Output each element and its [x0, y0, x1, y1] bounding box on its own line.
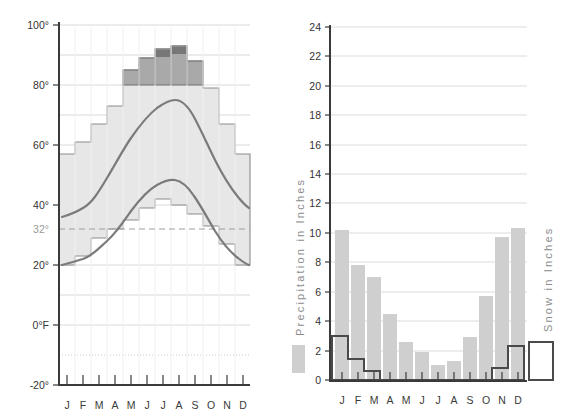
temperature-month-label-feb: F — [80, 399, 86, 411]
precipitation-month-label-jan: J — [339, 394, 344, 406]
temperature-month-label-oct: O — [207, 399, 215, 411]
precipitation-month-label-jul: J — [435, 394, 440, 406]
temperature-month-label-nov: N — [223, 399, 231, 411]
temperature-month-label-sep: S — [191, 399, 198, 411]
precipitation-bar-feb — [351, 265, 365, 380]
precipitation-ytick-10: 10 — [309, 227, 321, 239]
temperature-month-label-mar: M — [95, 399, 104, 411]
precipitation-ytick-2: 2 — [315, 345, 321, 357]
precipitation-bar-dec — [511, 228, 525, 380]
precipitation-ytick-20: 20 — [309, 80, 321, 92]
precipitation-ytick-16: 16 — [309, 139, 321, 151]
precipitation-snow-chart: 24 22 20 18 16 14 12 10 8 6 4 2 0 J F M … — [290, 0, 565, 416]
precipitation-ytick-18: 18 — [309, 109, 321, 121]
precipitation-ytick-14: 14 — [309, 168, 321, 180]
temperature-ytick-minus20: -20° — [30, 379, 49, 391]
temperature-month-label-apr: A — [111, 399, 118, 411]
precipitation-bar-oct — [479, 296, 493, 380]
precipitation-month-label-oct: O — [482, 394, 490, 406]
temperature-ytick-40: 40° — [33, 199, 49, 211]
temperature-month-label-jun: J — [144, 399, 149, 411]
precipitation-month-label-jun: J — [419, 394, 424, 406]
temperature-ytick-0F: 0°F — [33, 319, 49, 331]
precipitation-ytick-12: 12 — [309, 197, 321, 209]
precipitation-month-label-feb: F — [355, 394, 361, 406]
precipitation-ytick-6: 6 — [315, 286, 321, 298]
precipitation-ytick-24: 24 — [309, 21, 321, 33]
precipitation-month-label-mar: M — [370, 394, 379, 406]
precipitation-axis-title: Precipitation in Inches — [294, 178, 306, 336]
temperature-month-label-jul: J — [160, 399, 165, 411]
temperature-month-label-aug: A — [175, 399, 182, 411]
temperature-month-label-dec: D — [239, 399, 247, 411]
precipitation-month-label-nov: N — [498, 394, 506, 406]
temperature-ytick-20: 20° — [33, 259, 49, 271]
temperature-chart-svg: 100° 80° 60° 40° 32° 20° 0°F -20° J F M … — [0, 0, 290, 416]
precipitation-bars — [335, 228, 525, 380]
precipitation-month-label-apr: A — [386, 394, 393, 406]
snow-legend-box — [529, 342, 553, 380]
precipitation-month-label-sep: S — [466, 394, 473, 406]
precipitation-ytick-4: 4 — [315, 315, 321, 327]
precipitation-bar-nov — [495, 237, 509, 380]
temperature-ytick-80: 80° — [33, 79, 49, 91]
precipitation-bar-mar — [367, 277, 381, 380]
precipitation-ytick-8: 8 — [315, 256, 321, 268]
precipitation-bar-apr — [383, 314, 397, 380]
temperature-chart: 100° 80° 60° 40° 32° 20° 0°F -20° J F M … — [0, 0, 290, 416]
precipitation-legend-swatch — [292, 345, 305, 373]
precipitation-bar-jan — [335, 230, 349, 380]
temperature-ytick-60: 60° — [33, 139, 49, 151]
precipitation-month-label-aug: A — [450, 394, 457, 406]
temperature-month-label-jan: J — [64, 399, 69, 411]
precipitation-ytick-0: 0 — [315, 374, 321, 386]
temperature-ytick-100: 100° — [27, 19, 49, 31]
precipitation-month-label-may: M — [402, 394, 411, 406]
precipitation-ytick-22: 22 — [309, 50, 321, 62]
temperature-month-label-may: M — [127, 399, 136, 411]
precipitation-snow-chart-svg: 24 22 20 18 16 14 12 10 8 6 4 2 0 J F M … — [290, 0, 565, 416]
snow-axis-title: Snow in Inches — [542, 227, 554, 332]
temperature-ytick-32-freeze: 32° — [33, 223, 49, 235]
precipitation-month-label-dec: D — [514, 394, 522, 406]
